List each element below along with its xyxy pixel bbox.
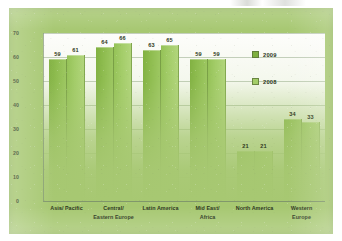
- x-axis-category-label: Asia/ Pacific: [50, 204, 82, 213]
- x-axis-category-labels: Asia/ PacificCentral/ Eastern EuropeLati…: [43, 204, 325, 232]
- bar-value-label: 59: [213, 51, 219, 57]
- x-axis-category-label: Central/ Eastern Europe: [93, 204, 134, 221]
- y-axis-tick-label: 60: [0, 54, 19, 60]
- bar-value-label: 59: [195, 51, 201, 57]
- bar-value-label: 63: [148, 42, 154, 48]
- y-axis-tick-label: 20: [0, 150, 19, 156]
- bar-value-label: 66: [119, 35, 125, 41]
- y-axis-tick-label: 30: [0, 126, 19, 132]
- x-axis-category-label: Western Europe: [291, 204, 313, 221]
- y-axis-tick-label: 40: [0, 102, 19, 108]
- chart-card: 010203040506070 596164666365595921213433…: [9, 8, 333, 234]
- legend-item-2009: 2009: [252, 51, 312, 58]
- bar-value-label: 61: [72, 47, 78, 53]
- bar-value-label: 34: [289, 111, 295, 117]
- scan-artifact-top: [230, 0, 325, 6]
- legend-label-2009: 2009: [263, 52, 277, 58]
- bar-value-label: 33: [307, 114, 313, 120]
- bar-value-label: 59: [54, 51, 60, 57]
- x-axis-category-label: Mid East/ Africa: [195, 204, 219, 221]
- y-axis-tick-label: 70: [0, 30, 19, 36]
- x-axis-category-label: Latin America: [142, 204, 178, 213]
- x-axis-category-label: North America: [236, 204, 274, 213]
- gridline: [43, 201, 325, 202]
- y-axis-tick-label: 50: [0, 78, 19, 84]
- chart-screenshot: 010203040506070 596164666365595921213433…: [0, 0, 342, 241]
- legend-swatch-icon-2008: [252, 78, 259, 85]
- y-axis-tick-label: 10: [0, 174, 19, 180]
- bar-value-label: 65: [166, 37, 172, 43]
- legend-label-2008: 2008: [263, 79, 277, 85]
- legend-item-2008: 2008: [252, 78, 312, 85]
- legend-swatch-icon-2009: [252, 51, 259, 58]
- bar-value-label: 21: [260, 143, 266, 149]
- y-axis-tick-label: 0: [0, 198, 19, 204]
- chart-legend: 2009 2008: [252, 51, 312, 105]
- bar-value-label: 21: [242, 143, 248, 149]
- bar-value-label: 64: [101, 39, 107, 45]
